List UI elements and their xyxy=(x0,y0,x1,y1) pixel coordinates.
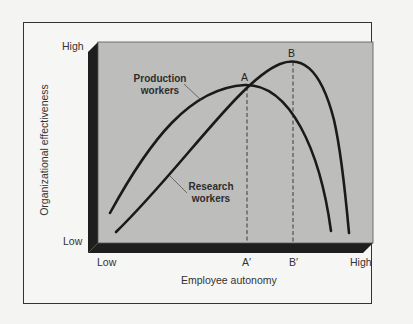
y-axis-title: Organizational effectiveness xyxy=(38,84,50,216)
x-axis-title: Employee autonomy xyxy=(181,274,277,286)
x-b-prime-label: B′ xyxy=(289,256,298,268)
research-label-line2: workers xyxy=(183,193,239,205)
x-low-label: Low xyxy=(97,256,116,268)
plot-bottom-edge xyxy=(88,243,373,253)
point-b-label: B xyxy=(288,47,295,59)
production-label-line1: Production xyxy=(129,73,191,85)
research-workers-label: Research workers xyxy=(183,181,239,205)
plot-left-edge xyxy=(88,42,98,253)
y-high-label: High xyxy=(62,40,84,52)
production-label-line2: workers xyxy=(129,85,191,97)
x-high-label: High xyxy=(350,256,372,268)
production-workers-label: Production workers xyxy=(129,73,191,97)
y-low-label: Low xyxy=(63,235,82,247)
point-a-label: A xyxy=(241,71,248,83)
research-label-line1: Research xyxy=(183,181,239,193)
x-a-prime-label: A′ xyxy=(242,256,251,268)
